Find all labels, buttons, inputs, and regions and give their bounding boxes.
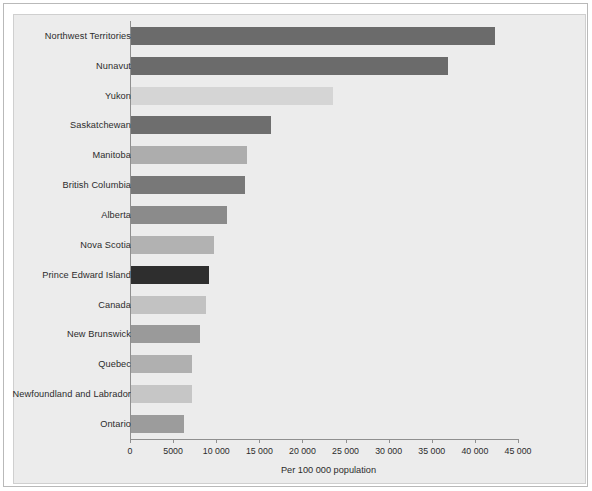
category-label: Nova Scotia: [80, 240, 131, 250]
bar: [131, 146, 247, 164]
bar: [131, 176, 245, 194]
bar-row: Newfoundland and Labrador: [14, 379, 587, 409]
chart-panel: Northwest TerritoriesNunavutYukonSaskatc…: [13, 14, 586, 484]
plot-area: Northwest TerritoriesNunavutYukonSaskatc…: [14, 15, 587, 485]
bar: [131, 87, 333, 105]
x-tick: [346, 439, 347, 443]
x-tick-label: 35 000: [418, 446, 445, 456]
category-label: Prince Edward Island: [42, 270, 131, 280]
bar: [131, 27, 495, 45]
x-tick-label: 10 000: [203, 446, 230, 456]
category-label: Ontario: [100, 419, 131, 429]
bar: [131, 415, 184, 433]
bar: [131, 116, 271, 134]
category-label: Manitoba: [92, 150, 131, 160]
x-tick: [216, 439, 217, 443]
bar-row: Saskatchewan: [14, 111, 587, 141]
x-tick: [302, 439, 303, 443]
x-tick: [259, 439, 260, 443]
x-tick-label: 15 000: [246, 446, 273, 456]
x-tick: [475, 439, 476, 443]
category-label: Quebec: [98, 359, 131, 369]
x-tick: [518, 439, 519, 443]
bar-row: Quebec: [14, 349, 587, 379]
x-axis-title-text: Per 100 000 population: [281, 465, 376, 475]
bar-row: Northwest Territories: [14, 21, 587, 51]
bar-row: Prince Edward Island: [14, 260, 587, 290]
x-tick-label: 25 000: [332, 446, 359, 456]
category-label: Yukon: [105, 91, 131, 101]
bar-row: Yukon: [14, 81, 587, 111]
bar-rows: Northwest TerritoriesNunavutYukonSaskatc…: [14, 21, 587, 439]
x-tick: [432, 439, 433, 443]
x-tick: [173, 439, 174, 443]
bar: [131, 266, 209, 284]
bar: [131, 236, 214, 254]
x-axis-line: [130, 439, 519, 440]
x-tick: [389, 439, 390, 443]
x-tick: [130, 439, 131, 443]
category-label: Newfoundland and Labrador: [13, 389, 131, 399]
bar: [131, 385, 192, 403]
bar: [131, 206, 227, 224]
bar-row: New Brunswick: [14, 320, 587, 350]
bar-row: Alberta: [14, 200, 587, 230]
bar-row: Manitoba: [14, 140, 587, 170]
x-axis-title: Per 100 000 population: [14, 465, 587, 475]
bar: [131, 355, 192, 373]
category-label: Saskatchewan: [70, 120, 131, 130]
category-label: New Brunswick: [67, 329, 131, 339]
bar-row: Nova Scotia: [14, 230, 587, 260]
bar: [131, 57, 448, 75]
category-label: Canada: [98, 300, 131, 310]
bar-row: Canada: [14, 290, 587, 320]
bar-row: Ontario: [14, 409, 587, 439]
x-tick-label: 40 000: [461, 446, 488, 456]
category-label: British Columbia: [63, 180, 132, 190]
x-tick-label: 30 000: [375, 446, 402, 456]
bar: [131, 296, 206, 314]
category-label: Nunavut: [96, 61, 131, 71]
bar-row: British Columbia: [14, 170, 587, 200]
category-label: Alberta: [101, 210, 131, 220]
chart-screenshot: Northwest TerritoriesNunavutYukonSaskatc…: [0, 0, 592, 491]
category-label: Northwest Territories: [45, 31, 131, 41]
bar-row: Nunavut: [14, 51, 587, 81]
x-tick-label: 45 000: [505, 446, 532, 456]
x-tick-label: 20 000: [289, 446, 316, 456]
x-tick-label: 5000: [163, 446, 183, 456]
x-tick-label: 0: [128, 446, 133, 456]
outer-frame: Northwest TerritoriesNunavutYukonSaskatc…: [3, 3, 588, 487]
bar: [131, 325, 200, 343]
